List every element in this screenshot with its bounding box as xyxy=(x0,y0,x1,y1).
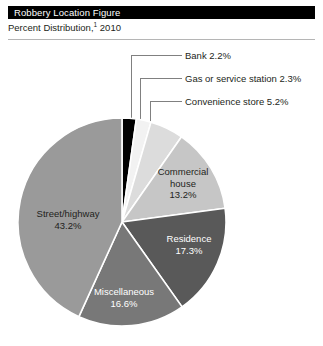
slice-label-residence-line1: Residence xyxy=(152,233,226,245)
figure-subtitle: Percent Distribution,1 2010 xyxy=(8,22,121,33)
slice-label-street-highway: Street/highway 43.2% xyxy=(21,208,115,231)
slice-label-residence-value: 17.3% xyxy=(152,245,226,257)
header-divider xyxy=(8,39,315,40)
slice-label-miscellaneous-line1: Miscellaneous xyxy=(78,286,170,298)
slice-label-miscellaneous: Miscellaneous 16.6% xyxy=(78,286,170,309)
callout-label-gas-or-service-station: Gas or service station 2.3% xyxy=(185,73,301,84)
slice-label-street-highway-value: 43.2% xyxy=(21,220,115,232)
subtitle-prefix: Percent Distribution, xyxy=(8,22,94,33)
figure-title-bar: Robbery Location Figure xyxy=(8,6,315,19)
slice-label-commercial-house: Commercial house 13.2% xyxy=(150,166,216,201)
slice-label-commercial-house-line1: Commercial xyxy=(150,166,216,178)
slice-label-street-highway-line1: Street/highway xyxy=(21,208,115,220)
leader-line-bank xyxy=(131,55,182,126)
slice-label-miscellaneous-value: 16.6% xyxy=(78,298,170,310)
callout-label-bank: Bank 2.2% xyxy=(185,50,231,61)
footnote-marker: 1 xyxy=(94,21,98,28)
callout-label-convenience-store: Convenience store 5.2% xyxy=(185,96,289,107)
slice-label-residence: Residence 17.3% xyxy=(152,233,226,256)
page-title: Robbery Location Figure xyxy=(8,6,120,19)
slice-label-commercial-house-value: 13.2% xyxy=(150,189,216,201)
slice-label-commercial-house-line2: house xyxy=(150,178,216,190)
subtitle-year: 2010 xyxy=(100,22,121,33)
